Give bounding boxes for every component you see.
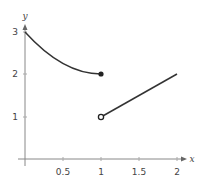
y-tick-label: 2	[12, 69, 18, 79]
x-tick-label: 1.5	[132, 167, 146, 177]
piecewise-function-chart: 0.5 1 1.5 2 1 2 3 x y	[0, 0, 199, 184]
y-axis-label: y	[21, 11, 28, 21]
line-piece-2	[101, 74, 177, 117]
x-axis-arrow-icon	[181, 157, 187, 162]
open-endpoint-dot	[98, 114, 103, 119]
curve-piece-1	[25, 32, 101, 74]
chart-canvas: 0.5 1 1.5 2 1 2 3 x y	[0, 0, 199, 184]
x-tick-label: 2	[174, 167, 180, 177]
x-tick-label: 1	[98, 167, 104, 177]
y-tick-label: 1	[12, 112, 18, 122]
x-tick-label: 0.5	[56, 167, 70, 177]
x-axis-label: x	[189, 154, 194, 164]
y-axis-arrow-icon	[23, 24, 28, 30]
closed-endpoint-dot	[98, 71, 103, 76]
y-tick-label: 3	[12, 27, 18, 37]
